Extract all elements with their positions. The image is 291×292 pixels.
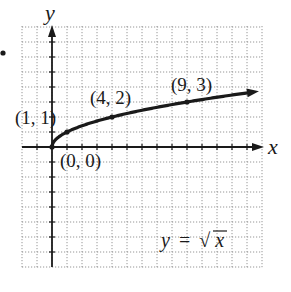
- equation-arg: x: [214, 229, 224, 251]
- bullet-dot: [0, 50, 5, 55]
- point-label: (1, 1): [15, 107, 56, 129]
- svg-text:y = √ x: y = √ x: [159, 229, 224, 252]
- sqrt-function-graph: (0, 0)(1, 1)(4, 2)(9, 3) x y y = √ x: [0, 0, 291, 292]
- equation-lhs: y: [159, 229, 170, 252]
- point-label: (9, 3): [171, 74, 212, 96]
- curve-arrowhead-icon: [246, 88, 259, 97]
- data-point: [109, 114, 114, 119]
- point-label: (0, 0): [60, 150, 101, 172]
- data-point: [64, 129, 69, 134]
- point-label: (4, 2): [90, 87, 131, 109]
- y-axis-label: y: [43, 0, 55, 25]
- equation-equals: =: [179, 229, 190, 251]
- axes: [22, 25, 264, 267]
- data-point: [184, 99, 189, 104]
- equation-label: y = √ x: [159, 229, 227, 252]
- radical-sign-icon: √: [199, 229, 210, 251]
- labeled-points: (0, 0)(1, 1)(4, 2)(9, 3): [15, 74, 212, 172]
- data-point: [49, 144, 54, 149]
- x-axis-label: x: [267, 134, 278, 159]
